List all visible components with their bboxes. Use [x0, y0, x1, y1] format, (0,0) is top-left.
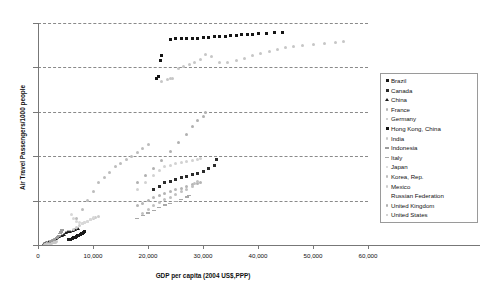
legend-item-china[interactable]: China — [383, 95, 476, 105]
legend-item-canada[interactable]: Canada — [383, 86, 476, 96]
data-point — [125, 158, 128, 161]
data-point — [187, 195, 191, 196]
gridline — [38, 156, 368, 157]
legend-item-india[interactable]: India — [383, 134, 476, 144]
legend-item-label: Hong Kong, China — [391, 124, 441, 134]
data-point — [180, 176, 183, 179]
data-point — [97, 181, 100, 184]
data-point — [185, 160, 188, 163]
legend-marker-icon — [383, 127, 391, 130]
data-point — [146, 212, 150, 213]
data-point — [169, 180, 172, 183]
data-point — [135, 218, 139, 219]
legend-marker-icon — [383, 157, 391, 158]
data-point — [180, 187, 183, 190]
data-point — [185, 133, 188, 136]
legend-item-mexico[interactable]: Mexico — [383, 182, 476, 192]
data-point — [179, 199, 183, 200]
legend-item-france[interactable]: France — [383, 105, 476, 115]
y-tick-mark — [33, 23, 38, 24]
data-point — [157, 75, 160, 78]
data-point — [218, 61, 221, 64]
x-tick-mark — [93, 245, 94, 249]
legend-item-label: Japan — [391, 162, 408, 172]
legend-item-united-states[interactable]: United States — [383, 210, 476, 220]
x-axis-line — [38, 245, 480, 246]
legend-item-hong-kong-china[interactable]: Hong Kong, China — [383, 124, 476, 134]
data-point — [152, 188, 155, 191]
legend-item-label: Brazil — [391, 76, 406, 86]
data-point — [312, 43, 315, 46]
data-point — [191, 173, 194, 176]
x-tick-label: 50,000 — [304, 252, 323, 259]
legend-item-germany[interactable]: Germany — [383, 114, 476, 124]
data-point — [174, 193, 177, 196]
x-tick-mark — [368, 245, 369, 249]
data-point — [199, 157, 202, 160]
legend-item-label: France — [391, 105, 410, 115]
legend-marker-icon — [383, 147, 391, 148]
data-point — [163, 204, 167, 205]
legend-item-label: Italy — [391, 153, 402, 163]
data-point — [207, 167, 210, 170]
data-point — [174, 37, 177, 40]
data-point — [55, 237, 59, 238]
legend-item-united-kingdom[interactable]: United Kingdom — [383, 201, 476, 211]
data-point — [152, 210, 156, 211]
x-tick-mark — [148, 245, 149, 249]
data-point — [235, 34, 238, 37]
data-point — [196, 37, 199, 40]
data-point — [251, 54, 254, 57]
data-point — [144, 174, 147, 177]
legend-item-japan[interactable]: Japan — [383, 162, 476, 172]
data-point — [226, 61, 229, 64]
legend-marker-icon — [383, 185, 391, 188]
data-point — [81, 208, 84, 211]
data-point — [174, 188, 177, 191]
data-point — [281, 31, 284, 34]
data-point — [158, 194, 161, 197]
data-point — [202, 115, 205, 118]
data-point — [168, 203, 172, 204]
data-point — [83, 230, 86, 233]
x-tick-mark — [203, 245, 204, 249]
gridline — [38, 23, 368, 24]
legend-item-label: Korea, Rep. — [391, 172, 424, 182]
data-point — [158, 201, 161, 204]
data-point — [185, 175, 188, 178]
data-point — [301, 44, 304, 47]
data-point — [163, 192, 166, 195]
x-tick-mark — [258, 245, 259, 249]
data-point — [86, 199, 89, 202]
data-point — [218, 35, 221, 38]
data-point — [163, 181, 166, 184]
data-point — [147, 208, 150, 211]
legend-item-brazil[interactable]: Brazil — [383, 76, 476, 86]
legend-item-label: China — [391, 95, 407, 105]
data-point — [114, 165, 117, 168]
data-point — [55, 240, 58, 243]
data-point — [136, 181, 139, 184]
data-point — [268, 50, 271, 53]
legend-marker-icon — [383, 108, 391, 111]
data-point — [191, 185, 194, 188]
data-point — [152, 204, 155, 207]
legend-item-russian-federation[interactable]: Russian Federation — [383, 191, 476, 201]
x-tick-label: 30,000 — [194, 252, 213, 259]
data-point — [136, 151, 139, 154]
data-point — [185, 37, 188, 40]
data-point — [243, 57, 246, 60]
data-point — [97, 215, 100, 218]
legend-marker-icon — [383, 204, 391, 207]
legend-marker-icon — [383, 79, 391, 82]
data-point — [152, 196, 155, 199]
data-point — [334, 41, 337, 44]
legend-item-korea-rep[interactable]: Korea, Rep. — [383, 172, 476, 182]
data-point — [136, 204, 139, 207]
legend-item-indonesia[interactable]: Indonesia — [383, 143, 476, 153]
data-point — [180, 37, 183, 40]
data-point — [92, 190, 95, 193]
data-point — [157, 207, 161, 208]
legend-item-italy[interactable]: Italy — [383, 153, 476, 163]
data-point — [246, 33, 249, 36]
